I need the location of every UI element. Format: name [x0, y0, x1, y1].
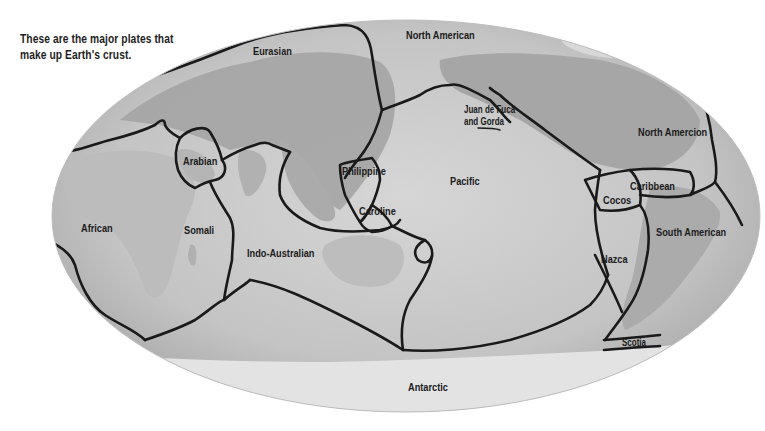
label-antarctic: Antarctic	[408, 381, 448, 393]
label-pacific: Pacific	[450, 175, 480, 187]
label-juan-de-fuca-1: Juan de Fuca	[464, 104, 515, 116]
label-nazca: Nazca	[601, 253, 628, 265]
label-eurasian: Eurasian	[253, 45, 292, 57]
label-caribbean: Caribbean	[630, 180, 675, 192]
label-scotia: Scotia	[622, 337, 646, 349]
label-philippine: Philippine	[342, 165, 386, 177]
label-african: African	[81, 222, 113, 234]
label-juan-de-fuca-2: and Gorda	[464, 116, 504, 128]
label-somali: Somali	[184, 224, 214, 236]
label-north-american-right: North Amercion	[638, 126, 707, 138]
label-caroline: Caroline	[359, 205, 396, 217]
label-south-american: South American	[656, 226, 726, 238]
label-arabian: Arabian	[183, 155, 217, 167]
label-north-american-top: North American	[406, 29, 475, 41]
label-indo-australian: Indo-Australian	[247, 247, 314, 259]
label-cocos: Cocos	[603, 194, 631, 206]
